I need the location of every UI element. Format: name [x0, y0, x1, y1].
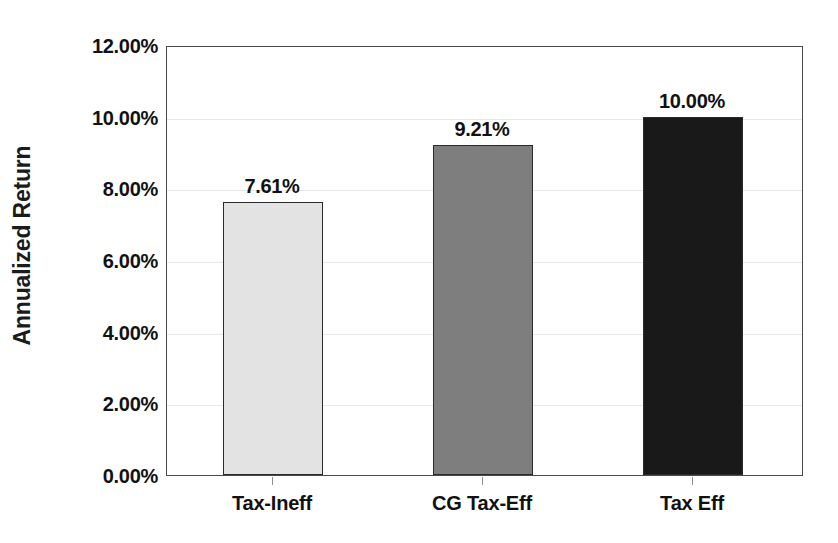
x-axis-category-label: CG Tax-Eff — [392, 492, 572, 515]
y-axis-tick-label: 0.00% — [40, 465, 158, 488]
bar-data-label: 9.21% — [432, 118, 532, 141]
y-axis-tick-labels: 0.00%2.00%4.00%6.00%8.00%10.00%12.00% — [40, 0, 158, 543]
x-axis-category-label: Tax-Ineff — [182, 492, 362, 515]
y-axis-tick-label: 10.00% — [40, 106, 158, 129]
y-axis-tick-label: 12.00% — [40, 35, 158, 58]
y-axis-tick-label: 4.00% — [40, 321, 158, 344]
bar-tax-ineff[interactable] — [223, 202, 323, 475]
x-axis-tick — [482, 477, 483, 485]
y-axis-tick-label: 8.00% — [40, 178, 158, 201]
x-axis-category-label: Tax Eff — [602, 492, 782, 515]
bar-tax-eff[interactable] — [643, 117, 743, 475]
x-axis-tick — [272, 477, 273, 485]
x-axis-tick — [692, 477, 693, 485]
y-axis-tick-label: 2.00% — [40, 393, 158, 416]
bar-data-label: 10.00% — [642, 90, 742, 113]
y-axis-title-label: Annualized Return — [10, 145, 37, 345]
chart-canvas: Annualized Return 0.00%2.00%4.00%6.00%8.… — [0, 0, 838, 543]
bar-cg-tax-eff[interactable] — [433, 145, 533, 475]
y-axis-tick-label: 6.00% — [40, 250, 158, 273]
bar-data-label: 7.61% — [222, 175, 322, 198]
